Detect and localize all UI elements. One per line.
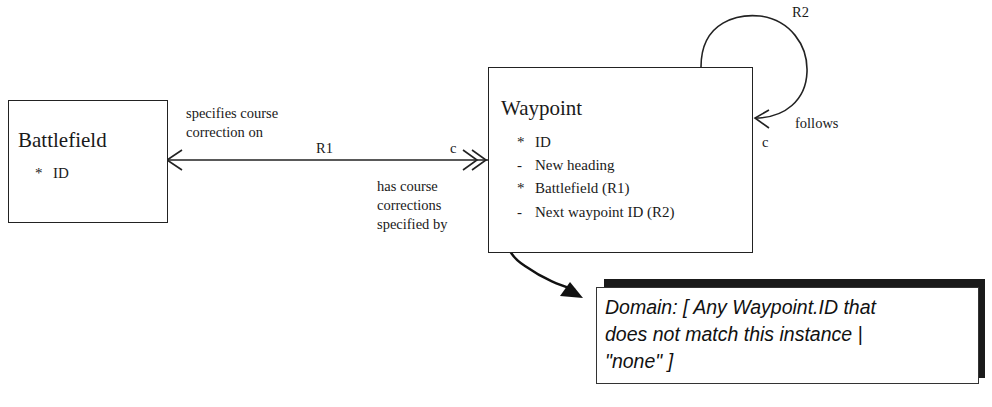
attribute-row: *ID — [517, 134, 551, 151]
r1-label: R1 — [316, 139, 333, 158]
attribute-label: ID — [535, 134, 551, 150]
class-title: Battlefield — [18, 128, 107, 153]
note-line: does not match this instance | — [605, 321, 970, 348]
r1-forward-phrase: specifies course correction on — [186, 104, 278, 142]
r1-reverse-phrase: has course corrections specified by — [377, 177, 447, 234]
attribute-label: Next waypoint ID (R2) — [535, 204, 675, 220]
class-waypoint[interactable]: Waypoint *ID -New heading *Battlefield (… — [488, 67, 753, 253]
class-title: Waypoint — [501, 96, 582, 121]
domain-note: Domain: [ Any Waypoint.ID that does not … — [596, 287, 979, 384]
attribute-label: New heading — [535, 157, 615, 173]
attribute-row: -Next waypoint ID (R2) — [517, 204, 675, 221]
phrase-line: corrections — [377, 196, 447, 215]
phrase-line: correction on — [186, 123, 278, 142]
identifier-marker: * — [35, 165, 53, 182]
identifier-marker: * — [517, 134, 535, 151]
note-line: "none" ] — [605, 348, 970, 375]
class-battlefield[interactable]: Battlefield *ID — [8, 100, 168, 223]
attribute-marker: - — [517, 204, 535, 221]
r2-conditionality: c — [762, 133, 768, 152]
identifier-marker: * — [517, 180, 535, 197]
phrase-line: specified by — [377, 215, 447, 234]
r2-phrase: follows — [795, 114, 839, 133]
attribute-label: ID — [53, 165, 69, 181]
phrase-line: specifies course — [186, 104, 278, 123]
attribute-row: -New heading — [517, 157, 615, 174]
note-line: Domain: [ Any Waypoint.ID that — [605, 294, 970, 321]
r2-label: R2 — [792, 3, 809, 22]
attribute-marker: - — [517, 157, 535, 174]
phrase-line: has course — [377, 177, 447, 196]
attribute-label: Battlefield (R1) — [535, 180, 630, 196]
r1-conditionality: c — [450, 139, 456, 158]
attribute-row: *ID — [35, 165, 69, 182]
attribute-row: *Battlefield (R1) — [517, 180, 630, 197]
